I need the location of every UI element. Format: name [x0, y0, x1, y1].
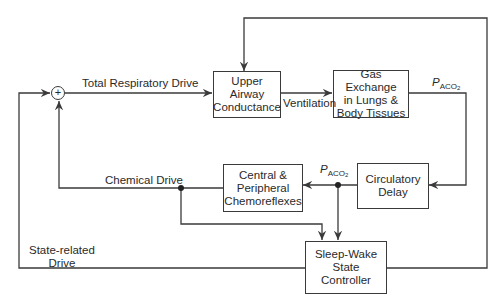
ventilation-label: Ventilation — [283, 97, 336, 110]
circulatory-delay-block: Circulatory Delay — [357, 163, 429, 209]
sleep-wake-block: Sleep-Wake State Controller — [305, 241, 387, 294]
state-to-airway-wire — [244, 18, 487, 268]
upper-airway-block: Upper Airway Conductance — [213, 71, 281, 118]
paco2-label-mid: PACO2 — [320, 163, 348, 178]
gas-exchange-block: Gas Exchange in Lungs & Body Tissues — [333, 70, 409, 118]
paco2-label-top: PACO2 — [432, 76, 460, 91]
branch-dot — [335, 182, 341, 188]
state-drive-label: State-related Drive — [29, 244, 95, 270]
summing-junction: + — [51, 86, 65, 100]
chemical-drive-label: Chemical Drive — [105, 174, 183, 187]
chemoreflex-block: Central & Peripheral Chemoreflexes — [223, 164, 303, 212]
total-drive-label: Total Respiratory Drive — [82, 77, 198, 90]
